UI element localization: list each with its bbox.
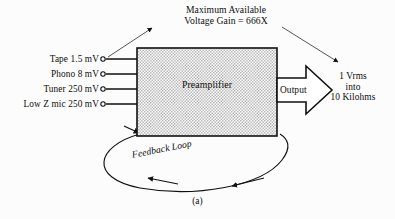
feedback-arrowhead-right [232, 178, 264, 186]
diagram-graphics [0, 0, 395, 219]
output-spec: 1 Vrms into 10 Kilohms [311, 71, 395, 103]
output-arrow-label: Output [280, 85, 307, 96]
input-label-tape: Tape 1.5 mV [0, 54, 99, 64]
input-label-phono: Phono 8 mV [0, 69, 99, 79]
output-spec-line2: into [311, 82, 395, 93]
preamplifier-block-label: Preamplifier [137, 80, 277, 91]
output-spec-line1: 1 Vrms [311, 71, 395, 82]
input-label-tuner: Tuner 250 mV [0, 84, 99, 94]
preamplifier-block [137, 48, 277, 136]
input-terminals [101, 57, 105, 106]
figure-caption: (a) [0, 196, 395, 207]
feedback-arrowhead-left [148, 178, 178, 184]
leader-right [282, 27, 338, 62]
preamplifier-block-diagram: Tape 1.5 mV Phono 8 mV Tuner 250 mV Low … [0, 0, 395, 219]
input-lines [106, 59, 137, 104]
output-spec-line3: 10 Kilohms [311, 92, 395, 103]
input-label-low-z-mic: Low Z mic 250 mV [0, 99, 99, 109]
gain-annotation: Maximum Available Voltage Gain = 666X [151, 5, 301, 26]
gain-annotation-line2: Voltage Gain = 666X [151, 16, 301, 27]
